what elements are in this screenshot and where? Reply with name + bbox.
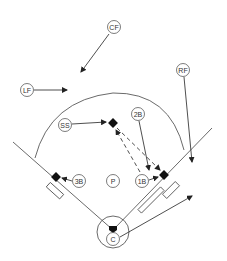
player-2b[interactable]: 2B (132, 108, 145, 121)
first-base-coach-box (163, 182, 180, 199)
ss-arrow (72, 122, 106, 124)
1b-arrow (149, 177, 158, 180)
player-rf[interactable]: RF (177, 64, 190, 77)
player-label: P (111, 178, 116, 185)
player-ss[interactable]: SS (59, 119, 72, 132)
c-arrow (120, 196, 192, 237)
cf-arrow (81, 34, 109, 72)
player-c[interactable]: C (107, 233, 120, 246)
player-label: LF (23, 87, 31, 94)
player-lf[interactable]: LF (21, 84, 34, 97)
2b-arrow (139, 121, 149, 170)
player-cf[interactable]: CF (108, 21, 121, 34)
home-plate (109, 226, 117, 233)
dashed-arrow-1b-to-2b (116, 130, 140, 172)
player-3b[interactable]: 3B (73, 175, 86, 188)
player-label: 2B (134, 111, 143, 118)
player-label: 1B (138, 178, 147, 185)
third-base (51, 172, 61, 182)
dashed-arrow-2b-to-1b (117, 128, 160, 170)
player-label: SS (60, 122, 70, 129)
3b-arrow (62, 178, 72, 181)
player-label: RF (178, 67, 187, 74)
third-base-foul-line (13, 142, 113, 230)
second-base (108, 118, 118, 128)
infield-arc (35, 93, 184, 158)
player-label: C (110, 236, 115, 243)
player-1b[interactable]: 1B (136, 175, 149, 188)
first-base (159, 170, 169, 180)
player-label: CF (109, 24, 118, 31)
player-p[interactable]: P (107, 175, 120, 188)
player-label: 3B (75, 178, 84, 185)
movement-arrows (34, 34, 192, 237)
third-base-coach-box (46, 182, 63, 199)
rf-arrow (184, 77, 192, 162)
first-base-foul-line (113, 128, 212, 230)
baseball-field-diagram: CF LF RF SS 2B 3B P 1B (0, 0, 227, 261)
